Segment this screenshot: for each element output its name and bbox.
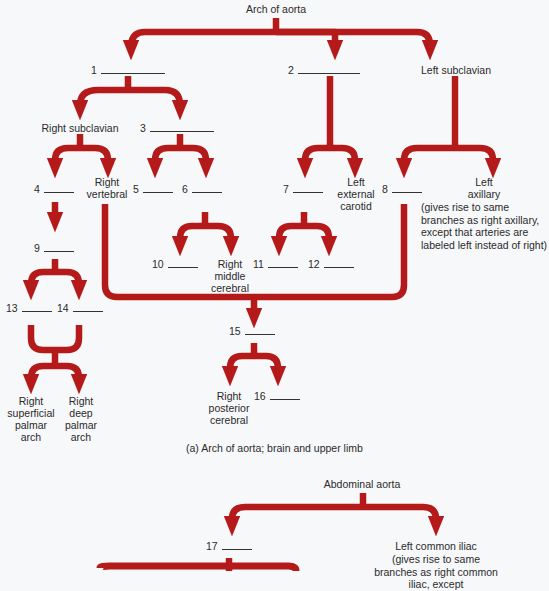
- blank-4: 4: [34, 183, 74, 195]
- blank-6: 6: [182, 183, 222, 195]
- blank-1: 1: [91, 64, 165, 76]
- number-label: 3: [140, 122, 146, 134]
- answer-line[interactable]: [268, 259, 298, 268]
- answer-line[interactable]: [101, 65, 165, 74]
- blank-11: 11: [253, 258, 298, 270]
- blank-5: 5: [133, 183, 173, 195]
- number-label: 13: [6, 302, 18, 314]
- answer-line[interactable]: [392, 184, 422, 193]
- right-superficial-palmar-arch-label: Right superficial palmar arch: [7, 395, 54, 443]
- answer-line[interactable]: [168, 259, 198, 268]
- left-axillary-note: (gives rise to same branches as right ax…: [421, 201, 549, 251]
- number-label: 1: [91, 64, 97, 76]
- blank-9: 9: [34, 242, 74, 254]
- blank-15: 15: [229, 325, 275, 337]
- answer-line[interactable]: [150, 123, 214, 132]
- blank-13: 13: [6, 302, 52, 314]
- number-label: 14: [57, 302, 69, 314]
- number-label: 15: [229, 325, 241, 337]
- number-label: 5: [133, 183, 139, 195]
- right-vertebral-label: Right vertebral: [87, 176, 128, 200]
- answer-line[interactable]: [44, 243, 74, 252]
- right-middle-cerebral-label: Right middle cerebral: [211, 258, 249, 294]
- blank-2: 2: [288, 64, 360, 76]
- number-label: 17: [206, 540, 218, 552]
- answer-line[interactable]: [324, 259, 354, 268]
- right-deep-palmar-arch-label: Right deep palmar arch: [65, 395, 97, 443]
- answer-line[interactable]: [73, 303, 103, 312]
- blank-10: 10: [152, 258, 198, 270]
- answer-line[interactable]: [222, 541, 252, 550]
- blank-8: 8: [382, 183, 422, 195]
- number-label: 8: [382, 183, 388, 195]
- answer-line[interactable]: [22, 303, 52, 312]
- blank-12: 12: [308, 258, 354, 270]
- number-label: 7: [283, 183, 289, 195]
- blank-7: 7: [283, 183, 323, 195]
- left-subclavian-label: Left subclavian: [421, 64, 491, 76]
- blank-17: 17: [206, 540, 252, 552]
- answer-line[interactable]: [298, 65, 360, 74]
- answer-line[interactable]: [270, 391, 300, 400]
- answer-line[interactable]: [44, 184, 74, 193]
- number-label: 4: [34, 183, 40, 195]
- root-abdominal-aorta: Abdominal aorta: [324, 478, 400, 490]
- answer-line[interactable]: [192, 184, 222, 193]
- blank-3: 3: [140, 122, 214, 134]
- right-subclavian-label: Right subclavian: [41, 122, 118, 134]
- figure-caption-a: (a) Arch of aorta; brain and upper limb: [186, 442, 363, 454]
- number-label: 16: [254, 390, 266, 402]
- number-label: 2: [288, 64, 294, 76]
- number-label: 10: [152, 258, 164, 270]
- blank-16: 16: [254, 390, 300, 402]
- left-axillary-label: Left axillary: [468, 176, 501, 200]
- number-label: 6: [182, 183, 188, 195]
- answer-line[interactable]: [293, 184, 323, 193]
- answer-line[interactable]: [245, 326, 275, 335]
- root-arch-of-aorta: Arch of aorta: [246, 3, 306, 15]
- number-label: 12: [308, 258, 320, 270]
- left-external-carotid-label: Left external carotid: [337, 176, 374, 212]
- answer-line[interactable]: [143, 184, 173, 193]
- number-label: 9: [34, 242, 40, 254]
- left-common-iliac-label: Left common iliac: [395, 540, 477, 552]
- number-label: 11: [253, 258, 264, 270]
- right-posterior-cerebral-label: Right posterior cerebral: [209, 390, 250, 426]
- left-common-iliac-note: (gives rise to same branches as right co…: [371, 553, 501, 591]
- blank-14: 14: [57, 302, 103, 314]
